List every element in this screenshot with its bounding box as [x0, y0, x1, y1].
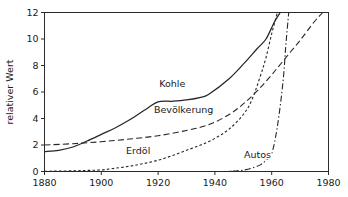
series-label-bev-lkerung: Bevölkerung	[154, 104, 213, 115]
series-label-kohle: Kohle	[159, 78, 185, 89]
x-tick-label: 1940	[203, 177, 227, 188]
x-axis-ticks	[45, 172, 329, 176]
y-tick-label: 4	[32, 113, 38, 124]
y-axis-tick-labels: 024681012	[26, 7, 38, 177]
chart-figure: 188019001920194019601980 024681012 relat…	[0, 0, 348, 197]
y-tick-label: 8	[32, 60, 38, 71]
y-axis-ticks	[41, 13, 45, 172]
x-axis-tick-labels: 188019001920194019601980	[32, 177, 340, 188]
series-label-autos: Autos	[244, 149, 271, 160]
x-tick-label: 1880	[32, 177, 56, 188]
data-series-group	[45, 13, 323, 172]
x-tick-label: 1920	[146, 177, 170, 188]
y-tick-label: 10	[26, 33, 38, 44]
series-label-group: KohleKohleBevölkerungBevölkerungErdölErd…	[126, 78, 271, 160]
series-line-erd-l	[45, 13, 278, 172]
y-axis-title: relativer Wert	[4, 59, 15, 124]
x-tick-label: 1900	[89, 177, 113, 188]
y-tick-label: 12	[26, 7, 38, 18]
x-tick-label: 1960	[260, 177, 284, 188]
series-label-erd-l: Erdöl	[126, 145, 150, 156]
y-tick-label: 0	[32, 166, 38, 177]
x-tick-label: 1980	[316, 177, 340, 188]
y-tick-label: 6	[32, 86, 38, 97]
y-tick-label: 2	[32, 139, 38, 150]
plot-area-frame	[45, 13, 329, 172]
